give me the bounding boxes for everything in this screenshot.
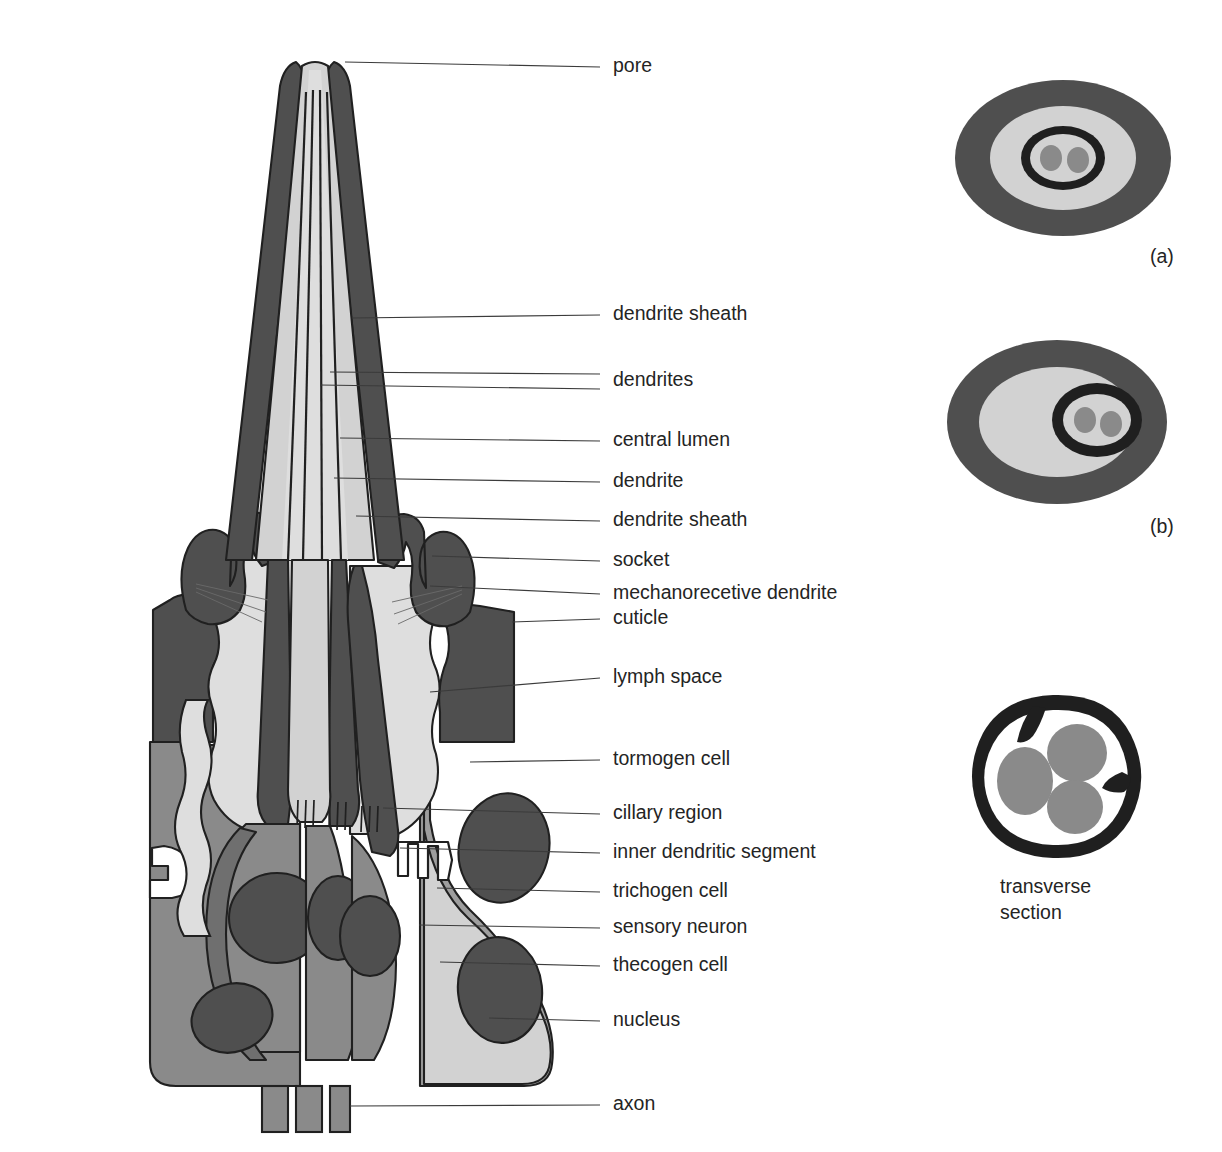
- inset-b-dendrite-2: [1100, 411, 1122, 437]
- leader-line-pore: [345, 62, 600, 67]
- transverse-dendrite-3: [1047, 780, 1103, 834]
- label-trichogen_cell: trichogen cell: [613, 879, 728, 901]
- figure-canvas: poredendrite sheathdendritescentral lume…: [0, 0, 1222, 1152]
- transverse-dendrite-2: [1047, 724, 1107, 782]
- label-mechanoreceptive_dendrite: mechanorecetive dendrite: [613, 581, 837, 603]
- transverse-dendrite-1: [997, 747, 1053, 815]
- label-central_lumen: central lumen: [613, 428, 730, 450]
- label-dendrite_sheath_2: dendrite sheath: [613, 508, 747, 530]
- inset-b-caption: (b): [1150, 515, 1174, 537]
- label-inner_dendritic_segment: inner dendritic segment: [613, 840, 816, 862]
- longitudinal-section: [150, 62, 559, 1132]
- neuron-nucleus-right-small: [340, 896, 400, 976]
- inset-a-caption: (a): [1150, 245, 1174, 267]
- label-lymph_space: lymph space: [613, 665, 722, 687]
- inset-transverse-section: transverse section: [972, 695, 1141, 923]
- label-dendrite: dendrite: [613, 469, 683, 491]
- label-dendrite_sheath_1: dendrite sheath: [613, 302, 747, 324]
- label-texts: poredendrite sheathdendritescentral lume…: [613, 54, 837, 1114]
- tormogen-nucleus: [449, 785, 560, 911]
- inset-a-dendrite-1: [1040, 145, 1062, 171]
- label-cillary_region: cillary region: [613, 801, 722, 823]
- label-thecogen_cell: thecogen cell: [613, 953, 728, 975]
- inset-b: (b): [947, 340, 1174, 537]
- axon-bundle: [262, 1086, 350, 1132]
- label-socket: socket: [613, 548, 670, 570]
- leader-line-cuticle: [512, 619, 600, 622]
- label-tormogen_cell: tormogen cell: [613, 747, 730, 769]
- label-axon: axon: [613, 1092, 655, 1114]
- inset-a: (a): [955, 80, 1174, 267]
- inset-b-dendrite-1: [1074, 407, 1096, 433]
- transverse-caption-line2: section: [1000, 901, 1062, 923]
- label-sensory_neuron: sensory neuron: [613, 915, 747, 937]
- leader-line-dendrite_sheath_1: [352, 315, 600, 318]
- leader-line-axon: [350, 1105, 600, 1106]
- label-nucleus: nucleus: [613, 1008, 680, 1030]
- central-lumen-lower: [288, 560, 330, 822]
- transverse-caption-line1: transverse: [1000, 875, 1091, 897]
- inset-a-dendrite-2: [1067, 147, 1089, 173]
- label-cuticle: cuticle: [613, 606, 668, 628]
- label-pore: pore: [613, 54, 652, 76]
- leader-line-tormogen_cell: [470, 760, 600, 762]
- sensillum-diagram-svg: poredendrite sheathdendritescentral lume…: [0, 0, 1222, 1152]
- label-dendrites: dendrites: [613, 368, 693, 390]
